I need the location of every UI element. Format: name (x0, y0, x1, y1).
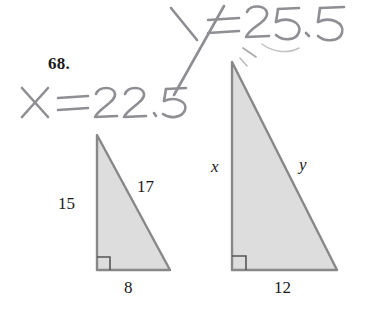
large-triangle (232, 62, 337, 270)
large-triangle-shape (232, 62, 337, 270)
small-triangle-label-base: 8 (124, 278, 133, 298)
small-triangle-label-hypotenuse: 17 (137, 177, 154, 197)
small-triangle (97, 135, 170, 270)
large-triangle-label-hypotenuse: y (299, 155, 307, 175)
large-triangle-label-base: 12 (274, 278, 291, 298)
small-triangle-label-vertical: 15 (58, 194, 75, 214)
worksheet-page: 68. 15 17 8 x y 12 (0, 0, 371, 321)
problem-number: 68. (48, 54, 70, 74)
geometry-figure (0, 0, 371, 321)
large-triangle-label-vertical: x (211, 157, 219, 177)
handwritten-x-answer (22, 88, 186, 117)
small-triangle-shape (97, 135, 170, 270)
handwritten-y-answer (171, 6, 344, 95)
